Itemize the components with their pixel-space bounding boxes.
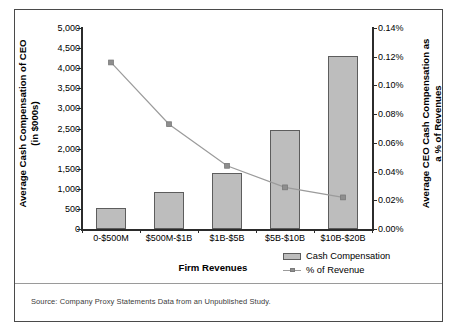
- footer-divider: [15, 283, 442, 284]
- right-tick-mark: [373, 200, 377, 201]
- legend-item-percent-of-revenue: % of Revenue: [283, 263, 423, 277]
- legend-bar-swatch-icon: [283, 253, 301, 260]
- x-tick-label: $5B-$10B: [265, 233, 305, 243]
- line-marker: [225, 163, 230, 168]
- left-tick-mark: [77, 68, 81, 69]
- bottom-axis-line: [81, 229, 374, 231]
- x-tick-label: $10B-$20B: [320, 233, 365, 243]
- plot-area: [82, 28, 372, 229]
- legend-line-swatch-icon: [283, 267, 301, 274]
- x-tick-label: 0-$500M: [93, 233, 129, 243]
- x-tick-mark: [372, 229, 373, 233]
- source-note: Source: Company Proxy Statements Data fr…: [31, 297, 271, 306]
- right-axis-title: Average CEO Cash Compensation as a % of …: [420, 16, 444, 231]
- right-tick-label: 0.12%: [378, 52, 404, 62]
- right-axis-title-line2: a % of Revenues: [432, 85, 443, 161]
- right-tick-label: 0.10%: [378, 80, 404, 90]
- line-series: [82, 28, 372, 229]
- left-tick-mark: [77, 209, 81, 210]
- line-marker: [283, 185, 288, 190]
- right-tick-label: 0.14%: [378, 23, 404, 33]
- x-axis-tick-labels: 0-$500M$500M-$1B$1B-$5B$5B-$10B$10B-$20B: [82, 233, 372, 247]
- left-tick-mark: [77, 229, 81, 230]
- right-tick-mark: [373, 172, 377, 173]
- left-tick-mark: [77, 189, 81, 190]
- line-marker: [109, 60, 114, 65]
- left-tick-mark: [77, 169, 81, 170]
- left-tick-mark: [77, 48, 81, 49]
- chart-legend: Cash Compensation % of Revenue: [283, 249, 423, 277]
- left-tick-mark: [77, 28, 81, 29]
- legend-label-percent-of-revenue: % of Revenue: [306, 265, 364, 275]
- line-path: [111, 62, 343, 197]
- right-tick-label: 0.08%: [378, 109, 404, 119]
- x-tick-label: $500M-$1B: [146, 233, 193, 243]
- right-tick-label: 0.06%: [378, 138, 404, 148]
- line-marker: [167, 122, 172, 127]
- line-marker: [341, 195, 346, 200]
- right-tick-mark: [373, 114, 377, 115]
- right-tick-label: 0.02%: [378, 195, 404, 205]
- x-tick-label: $1B-$5B: [209, 233, 244, 243]
- right-tick-label: 0.00%: [378, 224, 404, 234]
- left-tick-mark: [77, 129, 81, 130]
- right-tick-mark: [373, 28, 377, 29]
- left-tick-mark: [77, 149, 81, 150]
- right-tick-mark: [373, 85, 377, 86]
- left-tick-mark: [77, 88, 81, 89]
- right-tick-mark: [373, 229, 377, 230]
- right-tick-label: 0.04%: [378, 167, 404, 177]
- right-axis-title-line1: Average CEO Cash Compensation as: [421, 39, 432, 209]
- left-axis-title-line1: Average Cash Compensation of CEO: [17, 39, 28, 207]
- right-tick-mark: [373, 143, 377, 144]
- legend-item-cash-compensation: Cash Compensation: [283, 249, 423, 263]
- chart-figure: Average Cash Compensation of CEO (in $00…: [0, 0, 457, 334]
- right-tick-mark: [373, 57, 377, 58]
- left-tick-mark: [77, 108, 81, 109]
- legend-label-cash-compensation: Cash Compensation: [306, 251, 390, 261]
